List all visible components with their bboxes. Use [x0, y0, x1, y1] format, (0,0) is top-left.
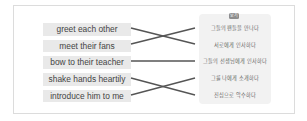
- matching-lines: [0, 0, 307, 121]
